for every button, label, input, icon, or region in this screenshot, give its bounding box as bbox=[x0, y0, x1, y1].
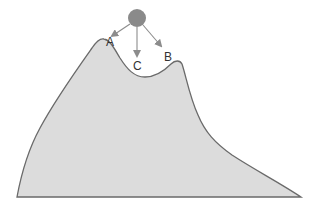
arrow-to-b bbox=[143, 25, 161, 46]
mountain-diagram: A C B bbox=[0, 0, 316, 209]
arrow-to-a bbox=[112, 24, 130, 36]
ball bbox=[128, 9, 146, 27]
mountain-shape bbox=[17, 39, 301, 197]
label-c: C bbox=[133, 59, 142, 73]
diagram-svg: A C B bbox=[0, 0, 316, 209]
label-b: B bbox=[164, 50, 172, 64]
label-a: A bbox=[106, 35, 114, 49]
